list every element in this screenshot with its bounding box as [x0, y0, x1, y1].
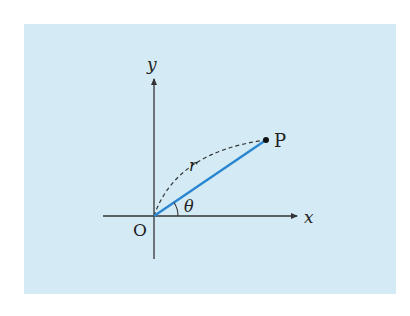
- angle-theta-label: θ: [184, 197, 194, 216]
- segment-op: [154, 140, 266, 216]
- angle-arc: [174, 203, 178, 217]
- point-p-dot: [263, 137, 269, 143]
- origin-label: O: [133, 220, 147, 240]
- radius-label: r: [189, 156, 198, 175]
- y-axis-label: y: [146, 54, 157, 74]
- polar-coordinate-diagram: y x O P r θ: [0, 0, 410, 316]
- x-axis-label: x: [304, 207, 314, 227]
- point-p-label: P: [274, 130, 286, 151]
